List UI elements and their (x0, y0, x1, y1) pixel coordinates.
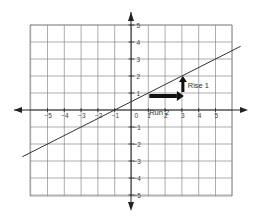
x-axis-left-arrow-icon (14, 107, 22, 113)
y-axis-down-arrow-icon (128, 202, 134, 211)
x-tick-label: −1 (112, 112, 120, 119)
y-tick-label: −1 (134, 124, 142, 131)
run-arrow-shaft (149, 94, 177, 98)
origin-label: 0 (135, 112, 139, 119)
y-tick-label: −4 (134, 175, 142, 182)
run-label: Run 2 (149, 108, 169, 117)
y-axis-up-arrow-icon (128, 12, 134, 21)
x-tick-label: −4 (61, 112, 69, 119)
coordinate-plane-figure: −5−4−3−2−11234554321−1−2−3−4−5 Run 2 Ris… (0, 0, 258, 218)
y-tick-label: −2 (134, 141, 142, 148)
x-tick-label: 5 (215, 112, 219, 119)
x-tick-label: −5 (45, 112, 53, 119)
x-tick-label: −3 (78, 112, 86, 119)
y-tick-label: −5 (134, 192, 142, 199)
y-tick-label: 4 (137, 39, 141, 46)
chart-svg: −5−4−3−2−11234554321−1−2−3−4−5 Run 2 Ris… (0, 0, 258, 218)
run-arrowhead-icon (177, 91, 184, 101)
y-tick-label: 1 (137, 90, 141, 97)
x-axis-right-arrow-icon (240, 107, 248, 113)
y-tick-label: −3 (134, 158, 142, 165)
rise-label: Rise 1 (188, 81, 209, 90)
y-tick-label: 3 (137, 56, 141, 63)
rise-arrow (179, 76, 187, 92)
x-tick-label: 3 (181, 112, 185, 119)
run-arrow (149, 91, 184, 101)
y-tick-label: 5 (137, 22, 141, 29)
x-tick-label: 4 (198, 112, 202, 119)
y-tick-label: 2 (137, 73, 141, 80)
rise-arrow-shaft (181, 81, 184, 92)
